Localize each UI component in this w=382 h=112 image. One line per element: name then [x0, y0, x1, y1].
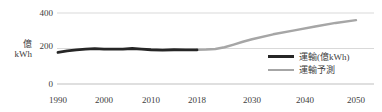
legend-item-historical: 運輸(億kWh) [268, 50, 382, 63]
x-tick-label-2050: 2050 [336, 95, 376, 105]
x-tick-label-2010: 2010 [131, 95, 171, 105]
x-tick-label-2000: 2000 [84, 95, 124, 105]
y-tick-label-200: 200 [20, 41, 53, 51]
x-tick-label-2030: 2030 [232, 95, 272, 105]
legend-line-swatch-historical [268, 55, 294, 58]
legend-label-forecast: 運輸予測 [299, 63, 335, 76]
series-line-historical [58, 49, 197, 53]
y-tick-label-400: 400 [20, 8, 53, 18]
series-line-forecast [197, 20, 356, 50]
x-tick-label-2018: 2018 [177, 95, 217, 105]
x-tick-label-1990: 1990 [38, 95, 78, 105]
legend-line-swatch-forecast [268, 69, 294, 71]
x-tick-label-2040: 2040 [285, 95, 325, 105]
legend-label-historical: 運輸(億kWh) [299, 50, 350, 63]
line-chart: 億 kWh 400 200 0 1990 2000 2010 2018 2030… [0, 0, 382, 112]
legend-item-forecast: 運輸予測 [268, 63, 382, 76]
y-tick-label-0: 0 [20, 79, 53, 89]
chart-legend: 運輸(億kWh) 運輸予測 [268, 50, 382, 76]
